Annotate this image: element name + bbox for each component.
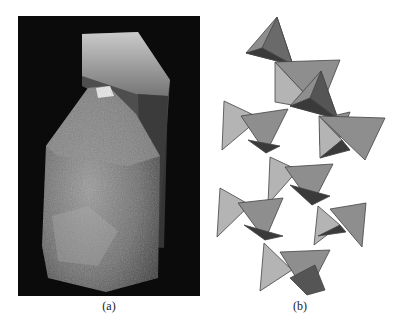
caption-b: (b) [280, 299, 320, 314]
tetrahedron-4 [222, 101, 288, 153]
tetrahedron-7 [268, 157, 333, 205]
tetrahedron-9 [314, 203, 366, 247]
tetrahedron-6 [319, 116, 385, 160]
quartz-crystal-image [18, 16, 200, 296]
tetrahedron-10 [260, 243, 330, 295]
caption-a: (a) [89, 299, 129, 314]
tetrahedra-diagram [205, 10, 405, 300]
silica-tetrahedra-network [205, 10, 405, 300]
tetrahedron-1 [246, 17, 293, 65]
crystal-photo [18, 16, 200, 296]
